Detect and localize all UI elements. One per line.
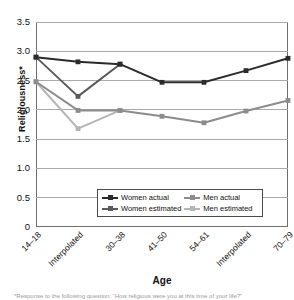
x-axis-tick-label: 70–79 xyxy=(272,230,294,253)
legend-item: Men estimated xyxy=(184,204,258,213)
x-axis-tick-label: Interpolated xyxy=(47,230,85,268)
data-point-marker xyxy=(76,108,81,113)
data-point-marker xyxy=(286,98,291,103)
data-point-marker xyxy=(76,59,81,64)
legend-label: Women estimated xyxy=(121,204,181,213)
legend-swatch-icon xyxy=(102,205,118,212)
x-axis-tick-labels: 14–18Interpolated30–3841–5054–61Interpol… xyxy=(36,228,288,274)
series-line xyxy=(36,82,120,129)
x-axis-tick-label: 41–50 xyxy=(146,230,169,253)
y-axis-tick-label: 1.5 xyxy=(17,134,30,144)
y-axis-tick-label: 1.0 xyxy=(17,163,30,173)
x-axis-tick-label: Interpolated xyxy=(215,230,253,268)
data-point-marker xyxy=(160,114,165,119)
legend-item: Women estimated xyxy=(102,204,181,213)
data-point-marker xyxy=(76,94,81,99)
legend-label: Women actual xyxy=(121,193,169,202)
x-axis-tick-label: 30–38 xyxy=(104,230,127,253)
legend-label: Men actual xyxy=(203,193,240,202)
y-axis-tick-label: 3.0 xyxy=(17,46,30,56)
data-point-marker xyxy=(34,55,39,60)
chart-figure: Religiousness* 00.51.01.52.02.53.03.5 14… xyxy=(0,0,294,300)
x-axis-tick-label: 54–61 xyxy=(188,230,211,253)
data-point-marker xyxy=(202,80,207,85)
data-point-marker xyxy=(34,79,39,84)
y-axis-tick-label: 2.5 xyxy=(17,76,30,86)
data-point-marker xyxy=(118,108,123,113)
chart-footnote: *Response to the following question: “Ho… xyxy=(14,293,286,300)
data-point-marker xyxy=(244,109,249,114)
data-point-marker xyxy=(202,120,207,125)
legend-swatch-icon xyxy=(184,194,200,201)
chart-legend: Women actualMen actualWomen estimatedMen… xyxy=(97,189,263,217)
series-line xyxy=(36,57,288,82)
legend-swatch-icon xyxy=(102,194,118,201)
data-point-marker xyxy=(76,126,81,131)
data-point-marker xyxy=(286,56,291,61)
x-axis-title: Age xyxy=(36,275,288,286)
y-axis-tick-label: 3.5 xyxy=(17,17,30,27)
y-axis-tick-label: 0.5 xyxy=(17,193,30,203)
y-axis-tick-label: 2.0 xyxy=(17,105,30,115)
data-point-marker xyxy=(118,62,123,67)
legend-item: Men actual xyxy=(184,193,258,202)
y-axis-tick-label: 0 xyxy=(25,222,30,232)
legend-item: Women actual xyxy=(102,193,181,202)
legend-swatch-icon xyxy=(184,205,200,212)
data-point-marker xyxy=(160,80,165,85)
y-axis-tick-labels: 00.51.01.52.02.53.03.5 xyxy=(0,0,34,300)
legend-label: Men estimated xyxy=(203,204,252,213)
data-point-marker xyxy=(244,68,249,73)
